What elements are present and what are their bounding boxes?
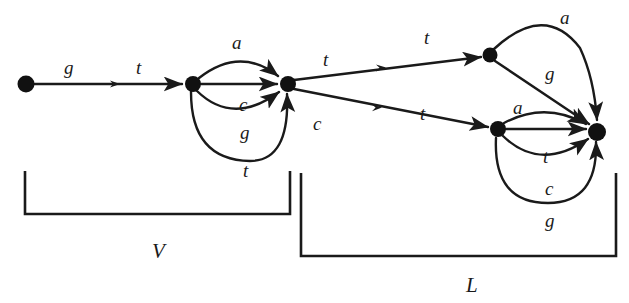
edge-label-g: g bbox=[64, 58, 74, 77]
figure-canvas: g t a c g t t c t t a g a t c g V L bbox=[0, 0, 629, 303]
edge-label-a: a bbox=[232, 33, 242, 52]
bracket-label-l: L bbox=[466, 275, 478, 296]
edge-n1-n2-c bbox=[197, 91, 279, 109]
edge-label-t: t bbox=[323, 50, 328, 69]
edge-label-t: t bbox=[543, 147, 548, 166]
node-l-upper bbox=[483, 48, 498, 63]
edge-n3-n5-g bbox=[495, 61, 589, 124]
node-v-right bbox=[280, 76, 296, 92]
edge-label-a: a bbox=[560, 8, 570, 27]
bracket-label-v: V bbox=[152, 241, 165, 262]
node-v-left bbox=[185, 76, 201, 92]
edge-label-a: a bbox=[513, 98, 523, 117]
node-start bbox=[18, 76, 35, 93]
edge-label-c: c bbox=[239, 95, 247, 114]
edge-label-t: t bbox=[136, 58, 141, 77]
edge-n2-n4-c bbox=[294, 89, 488, 127]
node-end bbox=[588, 123, 606, 141]
bracket-l bbox=[301, 173, 616, 256]
edge-label-g: g bbox=[545, 64, 555, 83]
edge-label-t: t bbox=[420, 104, 425, 123]
bracket-v bbox=[25, 171, 290, 214]
graph-svg bbox=[0, 0, 629, 303]
edge-label-g: g bbox=[545, 211, 555, 230]
edge-label-c: c bbox=[313, 114, 321, 133]
edge-label-t: t bbox=[243, 161, 248, 180]
edge-label-c: c bbox=[545, 179, 553, 198]
edge-n1-n2-a bbox=[199, 61, 278, 78]
edge-label-g: g bbox=[240, 123, 250, 142]
node-l-lower bbox=[490, 121, 506, 137]
edge-label-t: t bbox=[424, 28, 429, 47]
